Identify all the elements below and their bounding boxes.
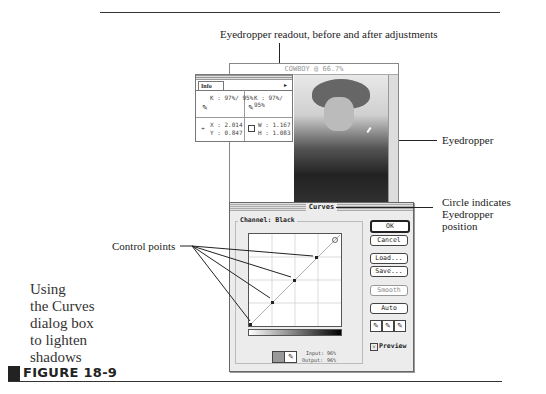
caption-line: dialog box xyxy=(30,315,110,332)
caption-line: shadows xyxy=(30,349,110,366)
figure-marker xyxy=(8,366,20,381)
figure-number: FIGURE 18-9 xyxy=(23,365,117,380)
caption-line: to lighten xyxy=(30,332,110,349)
bottom-rule xyxy=(8,381,502,382)
caption-line: Using xyxy=(30,281,110,298)
figure-caption: Using the Curves dialog box to lighten s… xyxy=(30,281,110,366)
caption-line: the Curves xyxy=(30,298,110,315)
